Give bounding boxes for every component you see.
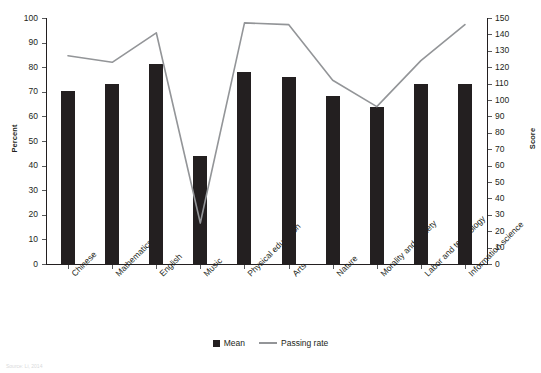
x-axis-tick	[156, 265, 157, 269]
legend-line-icon	[259, 342, 277, 344]
y-axis-right-tick-label: 30	[495, 210, 523, 219]
y-axis-right-tick	[488, 84, 492, 85]
y-axis-right-tick	[488, 34, 492, 35]
y-axis-left-tick-label: 80	[12, 63, 38, 72]
legend-item-mean: Mean	[213, 338, 245, 348]
y-axis-right-tick	[488, 149, 492, 150]
y-axis-right-tick	[488, 166, 492, 167]
legend-square-icon	[213, 340, 220, 347]
y-axis-left-tick-label: 0	[12, 260, 38, 269]
y-axis-right-tick	[488, 100, 492, 101]
y-axis-left-tick-label: 70	[12, 87, 38, 96]
x-axis-tick	[112, 265, 113, 269]
x-axis-tick	[244, 265, 245, 269]
y-axis-right-tick-label: 140	[495, 30, 523, 39]
y-axis-left-tick-label: 60	[12, 112, 38, 121]
y-axis-right-tick	[488, 264, 492, 265]
y-axis-left-tick-label: 10	[12, 235, 38, 244]
y-axis-left-tick-label: 40	[12, 161, 38, 170]
y-axis-right-tick-label: 50	[495, 178, 523, 187]
y-axis-right-title: Score	[528, 109, 537, 169]
y-axis-right-tick-label: 0	[495, 260, 523, 269]
y-axis-right-tick-label: 150	[495, 14, 523, 23]
x-axis-tick	[200, 265, 201, 269]
x-axis-tick	[68, 265, 69, 269]
y-axis-right-line	[487, 18, 488, 265]
y-axis-right-tick-label: 40	[495, 194, 523, 203]
legend-label-mean: Mean	[224, 338, 245, 348]
y-axis-right-tick-label: 110	[495, 79, 523, 88]
y-axis-right-tick-label: 100	[495, 96, 523, 105]
y-axis-left-tick-label: 30	[12, 186, 38, 195]
y-axis-left-tick-label: 50	[12, 137, 38, 146]
x-axis-tick	[377, 265, 378, 269]
y-axis-left-tick-label: 90	[12, 38, 38, 47]
passing-rate-line	[68, 23, 465, 223]
y-axis-right-tick	[488, 51, 492, 52]
y-axis-right-tick	[488, 116, 492, 117]
y-axis-left-tick-label: 100	[12, 14, 38, 23]
y-axis-right-tick-label: 60	[495, 161, 523, 170]
y-axis-right-tick	[488, 231, 492, 232]
y-axis-left-tick	[42, 264, 46, 265]
x-axis-tick	[421, 265, 422, 269]
x-axis-tick	[289, 265, 290, 269]
legend-item-passing-rate: Passing rate	[259, 338, 328, 348]
y-axis-right-tick	[488, 198, 492, 199]
x-axis-tick	[333, 265, 334, 269]
y-axis-right-tick-label: 130	[495, 46, 523, 55]
y-axis-right-tick	[488, 18, 492, 19]
source-note: Source: Li, 2014	[6, 363, 42, 369]
y-axis-right-tick	[488, 67, 492, 68]
x-axis-tick	[465, 265, 466, 269]
chart-container: Percent Score 01020304050607080901000102…	[0, 0, 541, 373]
y-axis-right-tick-label: 70	[495, 145, 523, 154]
y-axis-right-tick	[488, 215, 492, 216]
y-axis-right-tick-label: 120	[495, 63, 523, 72]
y-axis-right-tick	[488, 182, 492, 183]
chart-legend: Mean Passing rate	[0, 338, 541, 348]
y-axis-left-tick-label: 20	[12, 210, 38, 219]
y-axis-right-tick-label: 90	[495, 112, 523, 121]
y-axis-right-tick	[488, 133, 492, 134]
legend-label-passing-rate: Passing rate	[281, 338, 328, 348]
y-axis-right-tick-label: 80	[495, 128, 523, 137]
